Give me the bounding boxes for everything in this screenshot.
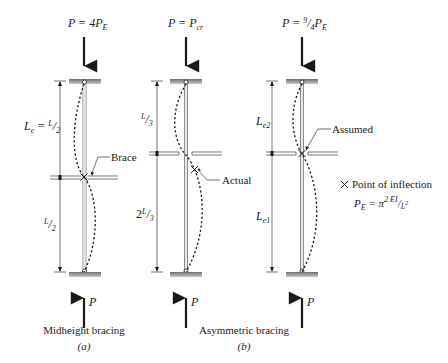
assumed-callout-line	[307, 129, 331, 148]
buckled-shape-c	[293, 84, 317, 272]
length-label-a-top: Le = L/2	[23, 119, 60, 135]
length-label-c-top: Le2	[255, 114, 270, 130]
length-label-b-bottom: 2L/3	[136, 207, 154, 223]
sublabel-a: (a)	[78, 340, 91, 353]
top-pin	[300, 80, 304, 84]
bottom-support	[286, 272, 318, 277]
legend-inflection-label: Point of inflection	[352, 178, 433, 190]
actual-callout-line	[199, 171, 220, 180]
top-pin	[184, 80, 188, 84]
legend-inflection-icon	[341, 181, 348, 188]
brace-callout-line	[92, 157, 110, 173]
length-label-c-bottom: Le1	[255, 209, 270, 225]
load-label-b: P = Pcr	[167, 16, 204, 32]
legend-formula: PE = π2EI/L2	[353, 195, 408, 212]
bottom-support	[69, 272, 101, 277]
buckled-shape-b	[175, 84, 202, 272]
reaction-label-a: P	[88, 295, 97, 309]
reaction-label-b: P	[190, 295, 199, 309]
column-c	[301, 84, 303, 272]
column-c-group	[266, 37, 338, 328]
column-a-group	[50, 37, 118, 328]
caption-a: Midheight bracing	[43, 324, 125, 336]
column-b-group	[149, 37, 222, 328]
length-label-b-top: L/3	[140, 112, 153, 128]
load-label-c: P = 9/4PE	[281, 16, 327, 32]
length-label-a-bottom: L/2	[43, 217, 56, 233]
figure-canvas: P = 4PE P = Pcr P = 9/4PE Le = L/2 L/2 B…	[0, 0, 448, 363]
caption-b: Asymmetric bracing	[199, 324, 290, 336]
bottom-support	[170, 272, 202, 277]
reaction-label-c: P	[306, 295, 315, 309]
inflection-point-icon	[191, 166, 198, 173]
column-b	[185, 84, 187, 272]
sublabel-b: (b)	[238, 340, 251, 353]
assumed-label: Assumed	[332, 123, 373, 135]
bracing-diagram: P = 4PE P = Pcr P = 9/4PE Le = L/2 L/2 B…	[0, 0, 448, 363]
top-pin	[83, 80, 87, 84]
brace-label: Brace	[111, 151, 137, 163]
load-label-a: P = 4PE	[67, 16, 108, 32]
actual-label: Actual	[222, 174, 251, 186]
